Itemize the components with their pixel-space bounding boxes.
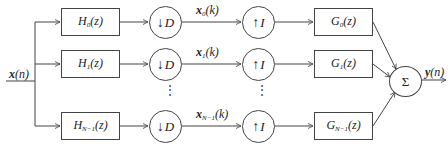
input-symbol: x (9, 67, 15, 81)
decimation-factor: D (165, 15, 174, 31)
output-signal-label: y(n) (425, 66, 444, 78)
filter-name: G (331, 14, 340, 28)
sigma-icon: Σ (402, 74, 410, 90)
filter-label: H0(z) (78, 15, 103, 29)
analysis-filter-h0: H0(z) (61, 8, 120, 36)
subband-label-n-1: xN−1(k) (196, 108, 228, 122)
decimation-factor: D (165, 57, 174, 73)
interpolator-0: ↑I (242, 6, 275, 39)
interpolation-factor: I (260, 57, 264, 73)
filter-sub: N−1 (335, 125, 348, 133)
filter-bank-diagram: x(n) H0(z) H1(z) HN−1(z) ↓D ↓D ↓D x0(k) … (0, 0, 448, 153)
filter-name: H (78, 56, 87, 70)
filter-label: H1(z) (78, 57, 103, 71)
filter-label: G1(z) (331, 57, 356, 71)
up-arrow-icon: ↑ (252, 57, 259, 73)
filter-arg: z (99, 118, 104, 132)
filter-sub: 1 (340, 63, 344, 71)
synthesis-filter-g0: G0(z) (314, 8, 373, 36)
filter-name: G (326, 118, 335, 132)
decimation-factor: D (165, 119, 174, 135)
down-arrow-icon: ↓ (157, 57, 164, 73)
filter-name: H (78, 14, 87, 28)
filter-sub: 1 (87, 63, 91, 71)
subband-arg: k (210, 45, 215, 59)
subband-label-1: x1(k) (196, 46, 219, 60)
input-signal-label: x(n) (9, 68, 29, 80)
down-arrow-icon: ↓ (157, 119, 164, 135)
filter-label: GN−1(z) (326, 119, 360, 133)
subband-arg: k (219, 107, 224, 121)
output-arg: n (434, 65, 440, 79)
synthesis-filter-g1: G1(z) (314, 50, 373, 78)
filter-label: HN−1(z) (73, 119, 107, 133)
filter-name: H (73, 118, 82, 132)
ellipsis-interpolators: ⋮ (256, 88, 262, 92)
filter-sub: N−1 (82, 125, 95, 133)
subband-sub: N−1 (202, 114, 215, 122)
summation-node: Σ (389, 66, 422, 97)
interpolation-factor: I (260, 119, 264, 135)
filter-arg: z (94, 56, 99, 70)
filter-sub: 0 (87, 21, 91, 29)
synthesis-filter-gn-1: GN−1(z) (314, 112, 373, 140)
analysis-filter-h1: H1(z) (61, 50, 120, 78)
filter-arg: z (347, 14, 352, 28)
filter-label: G0(z) (331, 15, 356, 29)
interpolator-1: ↑I (242, 48, 275, 81)
filter-name: G (331, 56, 340, 70)
interpolator-n-1: ↑I (242, 110, 275, 143)
output-symbol: y (425, 65, 430, 79)
subband-sub: 1 (202, 52, 206, 60)
subband-label-0: x0(k) (196, 4, 219, 18)
decimator-n-1: ↓D (149, 110, 182, 143)
up-arrow-icon: ↑ (252, 119, 259, 135)
down-arrow-icon: ↓ (157, 15, 164, 31)
input-arg: n (19, 67, 25, 81)
filter-sub: 0 (340, 21, 344, 29)
subband-arg: k (210, 3, 215, 17)
filter-arg: z (94, 14, 99, 28)
decimator-1: ↓D (149, 48, 182, 81)
subband-sub: 0 (202, 10, 206, 18)
ellipsis-decimators: ⋮ (164, 88, 170, 92)
interpolation-factor: I (260, 15, 264, 31)
decimator-0: ↓D (149, 6, 182, 39)
up-arrow-icon: ↑ (252, 15, 259, 31)
filter-arg: z (347, 56, 352, 70)
filter-arg: z (352, 118, 357, 132)
analysis-filter-hn-1: HN−1(z) (61, 112, 120, 140)
